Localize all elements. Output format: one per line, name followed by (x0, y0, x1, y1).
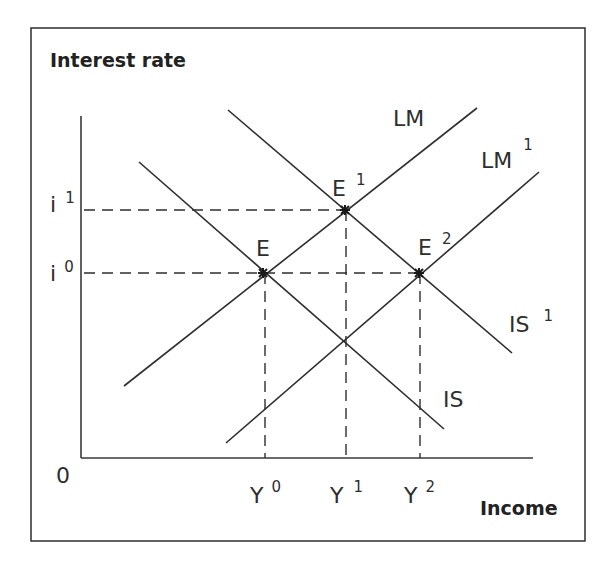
label-y2: Y 2 (403, 478, 435, 508)
x-axis-title: Income (480, 497, 558, 519)
label-lm: LM (393, 106, 424, 131)
label-is1: IS 1 (509, 307, 553, 337)
label-is: IS (443, 387, 463, 412)
equilibrium-marker-e2 (414, 268, 424, 278)
lm1-curve (226, 172, 539, 443)
diagram-frame (31, 28, 585, 541)
equilibrium-marker-e (258, 268, 268, 278)
label-y1: Y 1 (329, 478, 363, 508)
label-e2: E 2 (418, 230, 451, 260)
label-e1: E 1 (332, 171, 365, 201)
label-e: E (256, 236, 270, 261)
origin-label: 0 (56, 463, 70, 488)
equilibrium-marker-e1 (340, 205, 350, 215)
is-curve (139, 162, 444, 429)
label-lm1: LM 1 (481, 136, 533, 173)
label-i0: i 0 (50, 258, 74, 286)
y-axis-title: Interest rate (50, 49, 186, 71)
label-i1: i 1 (50, 189, 75, 217)
is-lm-diagram: Interest rate Income 0 E E 1 E (0, 0, 610, 568)
label-y0: Y 0 (249, 478, 281, 508)
